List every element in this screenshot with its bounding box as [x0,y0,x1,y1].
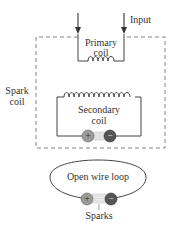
loop-plus-sign: + [83,193,91,204]
open-wire-loop-label: Open wire loop [58,171,138,182]
primary-coil-label-line2: coil [80,47,122,58]
secondary-coil-label-line2: coil [69,115,129,126]
input-arrow-right [121,13,127,34]
secondary-plus-sign: + [84,130,92,141]
input-label: Input [130,14,151,25]
secondary-coil-label-line1: Secondary [69,104,129,115]
secondary-minus-sign: − [106,130,114,141]
sparks-label: Sparks [79,210,119,221]
spark-coil-label-line1: Spark [2,85,32,96]
spark-gap [92,194,106,203]
spark-coil-label-line2: coil [2,96,32,107]
input-arrow-left [75,13,81,34]
loop-minus-sign: − [107,193,115,204]
